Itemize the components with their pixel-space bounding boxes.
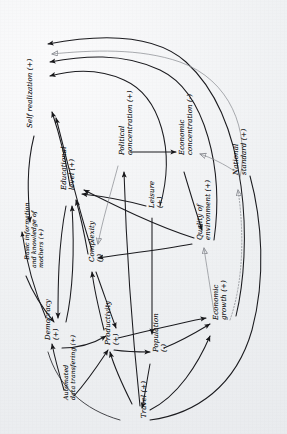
edge-automated-transfer-to-productivity: [74, 350, 108, 396]
edge-productivity-to-complexity: [92, 272, 104, 330]
node-label-economic-growth: Economic growth (+): [212, 280, 228, 320]
node-label-educational-level: Educational level (+): [60, 147, 76, 190]
node-label-economic-concentration: Economic concentration (-): [178, 94, 194, 155]
node-label-basic-information-text: Basic information and knowledge of mothe…: [23, 203, 44, 268]
edge-travel-to-productivity: [110, 352, 132, 404]
edge-travel-to-political-conc: [124, 172, 140, 406]
node-label-national-standard: National standard (+): [232, 129, 248, 175]
edge-complexity-to-educational-level: [76, 200, 88, 254]
node-label-leisure: Leisure (+): [148, 181, 164, 208]
edge-national-standard-to-economic-conc: [200, 154, 236, 172]
edge-leisure-to-educational-level: [82, 194, 146, 206]
node-label-automated-transfer: Automated data transfering (+): [62, 335, 76, 400]
edge-group-population: [48, 176, 261, 420]
edge-economic-growth-to-national-standard: [230, 190, 242, 320]
node-label-complexity: Complexity (-): [88, 221, 104, 262]
edge-quality-env-to-complexity: [98, 244, 192, 258]
node-label-democracy: Democracy (+): [44, 299, 60, 340]
node-label-self-realization: Self realization (+): [26, 59, 34, 128]
edge-group-self-realization: [48, 38, 244, 316]
node-label-quality-of-environment: Quality of environment (+): [196, 180, 212, 240]
edge-national-standard-to-self-realization: [52, 51, 243, 178]
edge-democracy-to-educational-level: [66, 206, 73, 322]
node-label-travel: Travel (+): [140, 381, 148, 418]
node-label-political-concentration: Political concentration (+): [118, 90, 134, 155]
edge-productivity-to-population: [114, 350, 150, 352]
node-label-productivity: Productivity (+): [104, 301, 120, 345]
node-label-basic-information: Basic information and knowledge of mothe…: [16, 203, 51, 268]
edge-outer-loop-bottom: [48, 352, 120, 420]
edge-economic-growth-to-self-realization: [48, 38, 244, 316]
edge-population-to-economic-growth: [164, 324, 210, 348]
edge-group-concentration: [124, 152, 236, 406]
node-label-population: Population (-): [152, 313, 168, 352]
diagram-canvas: Self realization (+) Basic information a…: [0, 0, 287, 434]
